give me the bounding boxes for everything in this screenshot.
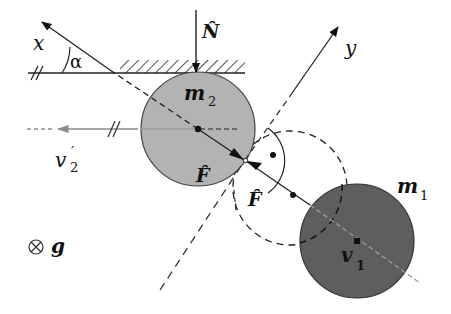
gravity-label: g	[51, 234, 65, 258]
right-angle-arc	[268, 128, 285, 193]
m1-center-dot	[354, 238, 360, 244]
svg-text:m: m	[184, 81, 205, 105]
contact-point	[243, 158, 247, 162]
svg-text:2: 2	[208, 94, 216, 109]
collision-position-dot	[290, 192, 296, 198]
svg-text:v: v	[341, 243, 353, 267]
angle-alpha-label: α	[70, 51, 82, 72]
contact-dash	[234, 190, 236, 212]
impulse-label-m2: F̂	[195, 164, 211, 186]
angle-alpha-arc	[62, 47, 70, 73]
collision-diagram: x y α N̂ F̂ F̂ m 2 m 1 v ′ 2 v 1 g	[0, 0, 451, 314]
svg-text:v: v	[55, 148, 67, 172]
velocity-v2-prime-label: v ′ 2	[55, 144, 78, 175]
gravity-into-page-icon	[29, 240, 43, 254]
x-axis-label: x	[33, 31, 44, 55]
normal-force-label: N̂	[201, 20, 220, 42]
wall-hatching	[120, 60, 245, 73]
svg-text:′: ′	[71, 144, 74, 160]
y-axis-arrow	[290, 27, 338, 96]
svg-text:m: m	[397, 174, 418, 198]
y-axis-label: y	[344, 36, 357, 60]
m2-center-dot	[195, 126, 201, 132]
svg-text:2: 2	[70, 160, 78, 175]
impulse-arrow-on-m1	[247, 161, 262, 170]
impulse-label-m1: F̂	[247, 188, 263, 210]
mass-m1-label: m 1	[397, 174, 428, 203]
right-angle-dot	[270, 152, 276, 158]
svg-text:1: 1	[356, 258, 365, 273]
svg-text:1: 1	[420, 188, 428, 203]
